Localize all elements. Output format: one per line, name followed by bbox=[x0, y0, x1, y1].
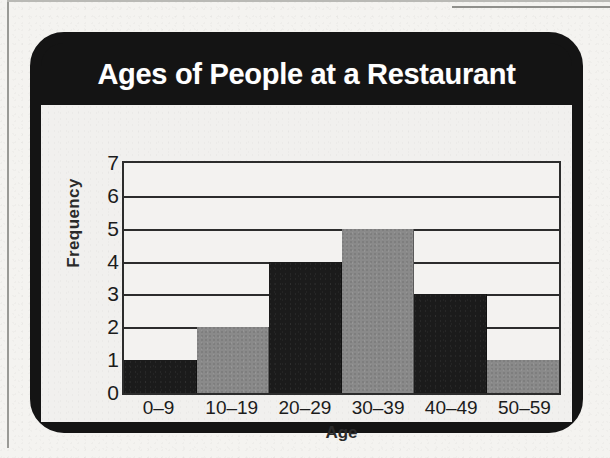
x-tick-label: 30–39 bbox=[342, 397, 415, 419]
bar-fill bbox=[487, 360, 560, 393]
bar-fill bbox=[269, 262, 342, 393]
chart-title-band: Ages of People at a Restaurant bbox=[41, 43, 572, 105]
plot-area bbox=[122, 161, 561, 395]
chart-panel: Frequency 76543210 0–910–1920–2930–3940–… bbox=[41, 105, 572, 422]
x-axis-tick-labels: 0–910–1920–2930–3940–4950–59 bbox=[122, 397, 561, 419]
x-tick-label: 50–59 bbox=[488, 397, 561, 419]
y-tick-label: 4 bbox=[93, 251, 119, 272]
bar-series bbox=[124, 163, 559, 393]
x-axis-label: Age bbox=[122, 423, 561, 443]
y-axis-tick-labels: 76543210 bbox=[77, 105, 119, 422]
y-tick-label: 7 bbox=[93, 152, 119, 173]
y-tick-label: 0 bbox=[93, 382, 119, 403]
y-tick-label: 3 bbox=[93, 283, 119, 304]
chart-title: Ages of People at a Restaurant bbox=[97, 58, 515, 91]
x-tick-label: 40–49 bbox=[415, 397, 488, 419]
x-tick-label: 10–19 bbox=[195, 397, 268, 419]
y-tick-label: 5 bbox=[93, 218, 119, 239]
figure-frame: Ages of People at a Restaurant Frequency… bbox=[30, 32, 583, 433]
y-tick-label: 6 bbox=[93, 185, 119, 206]
bar-fill bbox=[197, 327, 270, 393]
x-tick-label: 20–29 bbox=[268, 397, 341, 419]
page-margin-rule-left bbox=[7, 0, 9, 448]
page-margin-rule-top bbox=[7, 0, 610, 2]
page-margin-rule-top-right bbox=[452, 6, 610, 8]
y-tick-label: 1 bbox=[93, 349, 119, 370]
y-tick-label: 2 bbox=[93, 316, 119, 337]
bar-fill bbox=[342, 229, 415, 393]
bar-fill bbox=[124, 360, 197, 393]
scanned-page-background: Ages of People at a Restaurant Frequency… bbox=[0, 0, 610, 458]
bar-fill bbox=[414, 294, 487, 393]
x-tick-label: 0–9 bbox=[122, 397, 195, 419]
